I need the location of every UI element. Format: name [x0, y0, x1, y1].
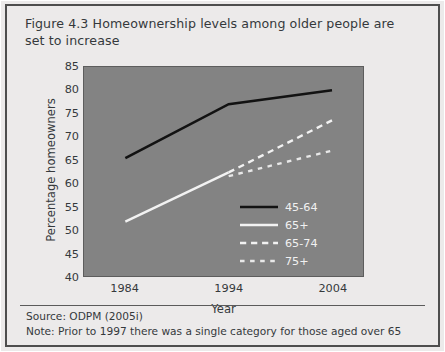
y-axis-tick-label: 70	[65, 130, 79, 143]
y-axis-title-holder: Percentage homeowners	[21, 66, 41, 277]
page-title: Figure 4.3 Homeownership levels among ol…	[25, 16, 415, 49]
legend-item[interactable]: 65+	[239, 216, 357, 234]
footer: Source: ODPM (2005i) Note: Prior to 1997…	[26, 309, 422, 340]
y-axis-tick-label: 65	[65, 153, 79, 166]
y-axis-tick-label: 60	[65, 177, 79, 190]
source-text: Source: ODPM (2005i)	[26, 309, 422, 324]
plot-area: 45-6465+65-7475+	[83, 66, 364, 277]
legend-item[interactable]: 45-64	[239, 198, 357, 216]
legend-item[interactable]: 65-74	[239, 234, 357, 252]
y-axis-tick-label: 80	[65, 83, 79, 96]
note-text: Note: Prior to 1997 there was a single c…	[26, 324, 422, 339]
legend-swatch-65-74	[239, 237, 279, 249]
series-line-45-64	[125, 90, 332, 158]
footer-divider	[20, 305, 425, 306]
y-axis-tick-label: 55	[65, 200, 79, 213]
series-line-65-74	[229, 120, 332, 172]
x-axis-tick-label: 1994	[214, 282, 243, 295]
y-axis-tick-label: 40	[65, 271, 79, 284]
x-axis-tick-label: 2004	[318, 282, 347, 295]
legend: 45-6465+65-7475+	[239, 198, 357, 270]
legend-item[interactable]: 75+	[239, 252, 357, 270]
x-axis-tick-label: 1984	[110, 282, 139, 295]
legend-swatch-65-	[239, 219, 279, 231]
figure-frame: Figure 4.3 Homeownership levels among ol…	[5, 4, 440, 347]
legend-swatch-75-	[239, 255, 279, 267]
legend-swatch-45-64	[239, 201, 279, 213]
figure-container: Figure 4.3 Homeownership levels among ol…	[0, 0, 445, 352]
y-axis-tick-label: 45	[65, 247, 79, 260]
chart: Percentage homeowners 858075706560555045…	[7, 52, 438, 302]
x-axis-ticks: 198419942004	[83, 282, 364, 300]
series-line-75-	[229, 151, 332, 177]
y-axis-ticks: 85807570656055504540	[47, 66, 79, 277]
legend-label: 75+	[279, 255, 309, 268]
legend-label: 65-74	[279, 237, 318, 250]
y-axis-tick-label: 85	[65, 60, 79, 73]
series-line-65-	[125, 172, 228, 221]
figure-body: Figure 4.3 Homeownership levels among ol…	[7, 6, 438, 345]
legend-label: 45-64	[279, 201, 318, 214]
y-axis-tick-label: 75	[65, 106, 79, 119]
y-axis-tick-label: 50	[65, 224, 79, 237]
legend-label: 65+	[279, 219, 309, 232]
